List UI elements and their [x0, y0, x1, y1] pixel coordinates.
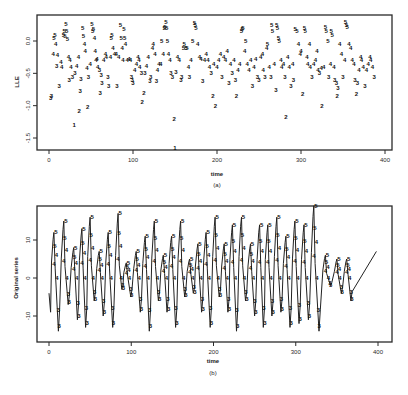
data-point-symbol: 4 — [371, 64, 375, 70]
data-point-symbol: 3 — [188, 74, 192, 80]
data-point-symbol: 4 — [94, 48, 98, 54]
data-point-symbol: 4 — [278, 275, 282, 281]
x-tick-label: 400 — [380, 157, 391, 163]
data-point-symbol: 5 — [53, 243, 57, 249]
data-point-symbol: 4 — [65, 275, 69, 281]
data-point-symbol: 4 — [243, 48, 247, 54]
data-point-symbol: 3 — [174, 305, 178, 311]
data-point-symbol: 5 — [286, 233, 290, 239]
data-point-symbol: 4 — [258, 259, 262, 265]
data-point-symbol: 3 — [148, 307, 152, 313]
data-point-symbol: 4 — [312, 253, 316, 259]
data-point-symbol: 5 — [198, 241, 202, 247]
data-point-symbol: 4 — [275, 257, 279, 263]
data-point-symbol: 5 — [66, 36, 70, 42]
data-point-symbol: 5 — [241, 232, 245, 238]
data-point-symbol: 3 — [99, 90, 103, 96]
data-point-symbol: 4 — [252, 64, 256, 70]
data-point-symbol: 3 — [310, 74, 314, 80]
data-point-symbol: 4 — [226, 275, 230, 281]
data-point-symbol: 4 — [225, 258, 229, 264]
data-point-symbol: 2 — [320, 103, 324, 109]
data-point-symbol: 4 — [242, 245, 246, 251]
data-point-symbol: 5 — [74, 245, 78, 251]
data-point-symbol: 5 — [224, 251, 228, 257]
data-point-symbol: 3 — [184, 292, 188, 298]
data-point-symbol: 4 — [254, 56, 258, 62]
data-point-symbol: 4 — [272, 61, 276, 67]
data-point-symbol: 4 — [348, 275, 352, 281]
data-point-symbol: 4 — [269, 248, 273, 254]
data-point-symbol: 3 — [308, 313, 312, 319]
x-tick-label: 100 — [126, 349, 137, 355]
data-point-symbol: 2 — [284, 114, 288, 120]
data-point-symbol: 4 — [269, 275, 273, 281]
data-point-symbol: 4 — [168, 57, 172, 63]
data-point-symbol: 4 — [153, 51, 157, 57]
data-point-symbol: 4 — [129, 57, 133, 63]
data-point-symbol: 3 — [67, 299, 71, 305]
data-point-symbol: 5 — [326, 252, 330, 258]
data-point-symbol: 5 — [278, 38, 282, 44]
y-tick-label: -10 — [25, 311, 31, 320]
data-point-symbol: 4 — [249, 265, 253, 271]
data-point-symbol: 3 — [149, 323, 153, 329]
data-point-symbol: 4 — [144, 263, 148, 269]
data-point-symbol: 4 — [138, 275, 142, 281]
data-point-symbol: 3 — [50, 93, 54, 99]
data-point-symbol: 3 — [143, 70, 147, 76]
data-point-symbol: 5 — [251, 241, 255, 247]
panel-b-ylabel: Original series — [13, 256, 19, 298]
data-point-symbol: 3 — [271, 309, 275, 315]
panel-a-caption: (a) — [213, 182, 220, 188]
data-point-symbol: 3 — [158, 296, 162, 302]
panel-b-caption: (b) — [209, 370, 216, 376]
data-point-symbol: 5 — [185, 45, 189, 51]
data-point-symbol: 5 — [206, 229, 210, 235]
data-point-symbol: 4 — [315, 239, 319, 245]
data-point-symbol: 5 — [165, 25, 169, 31]
data-point-symbol: 4 — [89, 61, 93, 67]
data-point-symbol: 5 — [277, 214, 281, 220]
data-point-symbol: 5 — [260, 222, 264, 228]
data-point-symbol: 4 — [83, 48, 87, 54]
data-point-symbol: 4 — [60, 64, 64, 70]
data-point-symbol: 4 — [360, 57, 364, 63]
panel-a-ylabel: LLE — [14, 76, 20, 87]
data-point-symbol: 4 — [156, 275, 160, 281]
data-point-symbol: 3 — [57, 83, 61, 89]
data-point-symbol: 5 — [191, 38, 195, 44]
data-point-symbol: 5 — [92, 26, 96, 32]
data-point-symbol: 5 — [244, 38, 248, 44]
data-point-symbol: 4 — [262, 67, 266, 73]
data-point-symbol: 4 — [152, 41, 156, 47]
data-point-symbol: 5 — [65, 28, 69, 34]
data-point-symbol: 4 — [138, 64, 142, 70]
data-point-symbol: 3 — [228, 306, 232, 312]
data-point-symbol: 4 — [297, 41, 301, 47]
x-tick-label: 200 — [208, 349, 219, 355]
data-point-symbol: 3 — [122, 285, 126, 291]
data-point-symbol: 4 — [326, 264, 330, 270]
panel-b-xlabel: time — [207, 358, 220, 364]
data-point-symbol: 4 — [261, 275, 265, 281]
data-point-symbol: 4 — [54, 41, 58, 47]
data-point-symbol: 2 — [141, 99, 145, 105]
data-point-symbol: 4 — [369, 57, 373, 63]
data-point-symbol: 5 — [64, 218, 68, 224]
data-point-symbol: 3 — [99, 72, 103, 78]
data-point-symbol: 3 — [107, 83, 111, 89]
data-point-symbol: 5 — [82, 226, 86, 232]
data-point-symbol: 4 — [247, 67, 251, 73]
data-point-symbol: 4 — [173, 275, 177, 281]
data-point-symbol: 5 — [276, 232, 280, 238]
data-point-symbol: 3 — [103, 309, 107, 315]
data-point-symbol: 3 — [209, 305, 213, 311]
data-point-symbol: 2 — [214, 103, 218, 109]
panel-b: 5544433554443355444335544433554443355444… — [13, 203, 392, 376]
data-point-symbol: 3 — [140, 306, 144, 312]
data-point-symbol: 3 — [234, 77, 238, 83]
data-point-symbol: 4 — [109, 252, 113, 258]
data-point-symbol: 3 — [202, 306, 206, 312]
y-tick-label: 0.0 — [25, 36, 31, 45]
